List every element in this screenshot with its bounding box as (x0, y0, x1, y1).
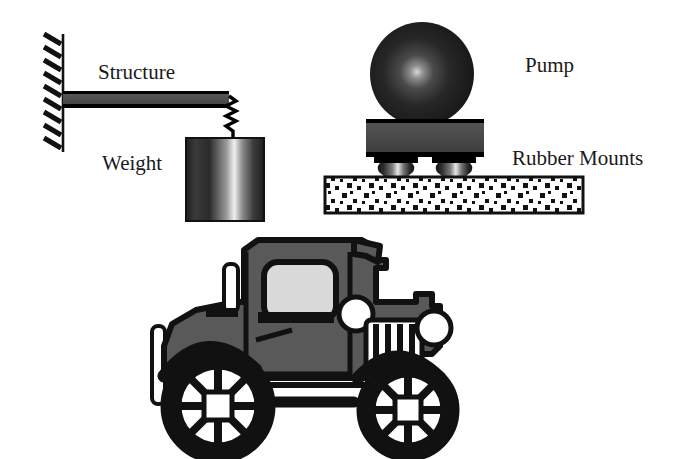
vintage-automobile-illustration (140, 228, 470, 459)
fixed-wall-support (44, 34, 63, 152)
cantilever-weight-diagram (0, 0, 290, 235)
headlight (417, 311, 451, 345)
structure-beam (63, 91, 229, 108)
body-trim-bar (206, 308, 238, 317)
pump-rubber-mounts-diagram (318, 14, 598, 214)
car-cab-window (264, 262, 336, 320)
door-handle (258, 312, 334, 323)
label-weight: Weight (102, 153, 162, 174)
diagram-canvas: Structure Weight Pump Rubber Mounts (0, 0, 675, 459)
label-rubber-mounts: Rubber Mounts (512, 148, 643, 169)
weight-cylinder (186, 138, 264, 221)
pump-sphere (370, 22, 474, 126)
concrete-floor-slab (325, 177, 583, 213)
pump-base-plate (366, 119, 484, 157)
label-pump: Pump (525, 55, 574, 76)
front-wheel (366, 368, 450, 452)
label-structure: Structure (98, 62, 175, 83)
cab-vent-window (224, 264, 238, 312)
rear-wheel (171, 359, 265, 453)
